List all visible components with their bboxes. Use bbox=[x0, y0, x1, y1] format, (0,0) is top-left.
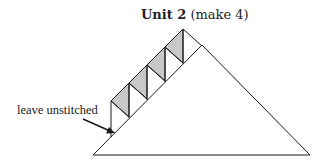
shaded-triangle-1 bbox=[111, 83, 129, 117]
shaded-triangle-2 bbox=[129, 65, 147, 99]
arrow-icon bbox=[83, 119, 115, 134]
title-quantity: (make 4) bbox=[186, 7, 248, 22]
title-unit: Unit 2 bbox=[141, 7, 186, 22]
shaded-triangle-3 bbox=[147, 47, 165, 81]
shaded-triangle-4 bbox=[165, 29, 183, 63]
leave-unstitched-label: leave unstitched bbox=[17, 103, 99, 117]
diagram-title: Unit 2 (make 4) bbox=[141, 7, 249, 22]
quilt-unit-diagram: Unit 2 (make 4) leave unstitched bbox=[0, 0, 328, 168]
